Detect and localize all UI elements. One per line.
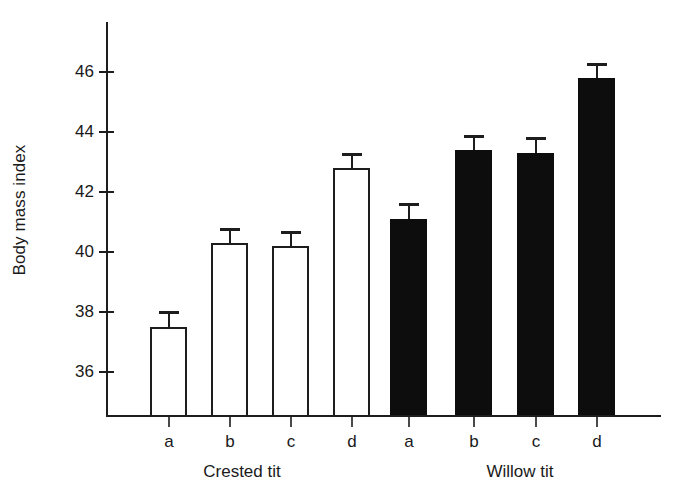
x-tick-mark <box>290 417 292 427</box>
x-tick-mark <box>473 417 475 427</box>
x-tick-mark <box>229 417 231 427</box>
x-tick-mark <box>168 417 170 427</box>
error-bar-cap <box>342 153 362 156</box>
y-tick-mark <box>99 251 114 253</box>
bar-willow-tit-d <box>578 78 615 415</box>
bar-willow-tit-a <box>390 219 427 415</box>
bar-chart-figure: Body mass index 363840424446 abcdabcd Cr… <box>0 0 687 499</box>
x-tick-mark <box>351 417 353 427</box>
x-category-label: b <box>454 432 494 452</box>
x-category-label: a <box>149 432 189 452</box>
x-tick-mark <box>596 417 598 427</box>
y-tick-label: 40 <box>48 243 94 260</box>
x-category-label: d <box>577 432 617 452</box>
y-tick-mark <box>99 371 114 373</box>
error-bar-cap <box>464 135 484 138</box>
y-tick-mark <box>99 71 114 73</box>
y-tick-label: 36 <box>48 363 94 380</box>
x-category-label: c <box>271 432 311 452</box>
x-category-label: b <box>210 432 250 452</box>
y-tick-label: 42 <box>48 183 94 200</box>
error-bar-cap <box>587 63 607 66</box>
group-label-willow-tit: Willow tit <box>440 462 600 482</box>
error-bar-cap <box>159 311 179 314</box>
y-axis-line <box>106 22 108 416</box>
bar-willow-tit-c <box>517 153 554 415</box>
error-bar-cap <box>399 203 419 206</box>
error-bar-cap <box>281 231 301 234</box>
bar-crested-tit-c <box>272 246 309 415</box>
x-category-label: d <box>332 432 372 452</box>
error-bar-cap <box>526 137 546 140</box>
plot-area: 363840424446 abcdabcd Crested titWillow … <box>0 0 687 499</box>
x-tick-mark <box>535 417 537 427</box>
y-tick-mark <box>99 191 114 193</box>
bar-crested-tit-a <box>150 327 187 415</box>
error-bar-cap <box>220 228 240 231</box>
bar-willow-tit-b <box>455 150 492 415</box>
bar-crested-tit-d <box>333 168 370 415</box>
x-axis-line <box>106 415 661 417</box>
y-tick-mark <box>99 131 114 133</box>
x-tick-mark <box>408 417 410 427</box>
group-label-crested-tit: Crested tit <box>162 462 322 482</box>
y-tick-label: 46 <box>48 63 94 80</box>
x-category-label: a <box>389 432 429 452</box>
y-tick-mark <box>99 311 114 313</box>
y-tick-label: 38 <box>48 303 94 320</box>
y-tick-label: 44 <box>48 123 94 140</box>
x-category-label: c <box>516 432 556 452</box>
bar-crested-tit-b <box>211 243 248 415</box>
